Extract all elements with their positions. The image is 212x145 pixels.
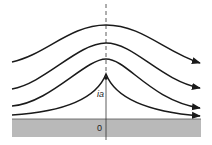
flow-diagram: ia 0 bbox=[0, 0, 212, 145]
streamline-1 bbox=[12, 25, 200, 63]
singular-point-dot bbox=[104, 76, 108, 80]
ground-band bbox=[12, 119, 201, 137]
point-label-ia: ia bbox=[97, 89, 104, 99]
origin-label: 0 bbox=[97, 123, 102, 133]
